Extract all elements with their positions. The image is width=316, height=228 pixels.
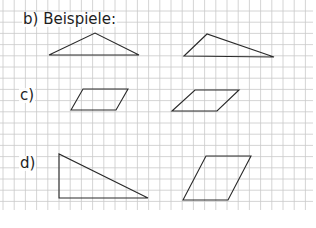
grid-lines xyxy=(0,0,313,210)
shapes-layer xyxy=(49,33,274,200)
section-b-label: b) Beispiele: xyxy=(22,12,117,27)
c-parallelogram-left xyxy=(71,89,128,110)
graph-paper-grid xyxy=(0,0,316,228)
b-triangle-obtuse-isosceles xyxy=(49,33,139,55)
section-c-label: c) xyxy=(19,88,35,103)
section-d-label: d) xyxy=(19,156,36,171)
worksheet-page: b) Beispiele: c) d) xyxy=(0,0,316,228)
